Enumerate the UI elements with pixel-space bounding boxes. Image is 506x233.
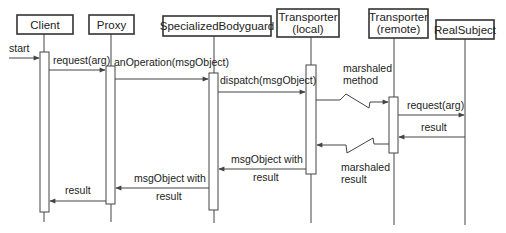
message-label: marshaled [341, 161, 390, 173]
message-label: request(arg) [407, 99, 464, 111]
participant-label: Transporter [369, 11, 428, 23]
message-label: result [65, 184, 91, 196]
message-label: anOperation(msgObject) [114, 56, 229, 68]
participant-realsubject: RealSubject [434, 20, 497, 39]
message-start: start [9, 42, 39, 58]
participant-label: Proxy [97, 19, 127, 31]
activation-bar-bodyguard [209, 73, 218, 210]
participants: ClientProxySpecializedBodyguardTransport… [17, 9, 497, 39]
participant-label: (remote) [377, 23, 421, 35]
network-arrow [317, 138, 389, 153]
message-result-1: result [399, 121, 465, 137]
message-request-arg-2: request(arg) [398, 99, 464, 115]
sequence-diagram: ClientProxySpecializedBodyguardTransport… [0, 0, 506, 233]
participant-label: Client [30, 19, 60, 31]
message-label: result [156, 190, 182, 202]
participant-label: RealSubject [434, 24, 497, 36]
activation-bar-proxy [106, 66, 115, 204]
message-label: start [9, 42, 30, 54]
message-marshaled-result: marshaledresult [317, 138, 390, 185]
message-dispatch: dispatch(msgObject) [218, 74, 316, 92]
participant-label: (local) [292, 23, 323, 35]
participant-bodyguard: SpecializedBodyguard [160, 16, 274, 36]
message-label: marshaled [343, 62, 392, 74]
message-label: result [341, 173, 367, 185]
message-label: result [421, 121, 447, 133]
message-label: msgObject with [231, 153, 303, 165]
message-msg-object-with-result-2: msgObject withresult [116, 172, 209, 202]
participant-label: Transporter [278, 11, 337, 23]
message-label: result [253, 171, 279, 183]
participant-label: SpecializedBodyguard [160, 20, 274, 32]
participant-client: Client [17, 15, 73, 34]
network-arrow [316, 94, 388, 108]
activation-bar-transporter-remote [389, 97, 398, 153]
message-label: request(arg) [53, 54, 110, 66]
message-label: msgObject with [134, 172, 206, 184]
message-request-arg-1: request(arg) [49, 54, 110, 70]
message-label: method [343, 74, 378, 86]
participant-transporter-remote: Transporter(remote) [369, 9, 428, 38]
activation-bar-client [40, 52, 49, 212]
message-msg-object-with-result-1: msgObject withresult [219, 153, 306, 183]
message-marshaled-method: marshaledmethod [316, 62, 392, 108]
message-label: dispatch(msgObject) [220, 74, 316, 86]
participant-transporter-local: Transporter(local) [277, 9, 339, 37]
message-result-2: result [50, 184, 106, 201]
participant-proxy: Proxy [89, 15, 134, 34]
